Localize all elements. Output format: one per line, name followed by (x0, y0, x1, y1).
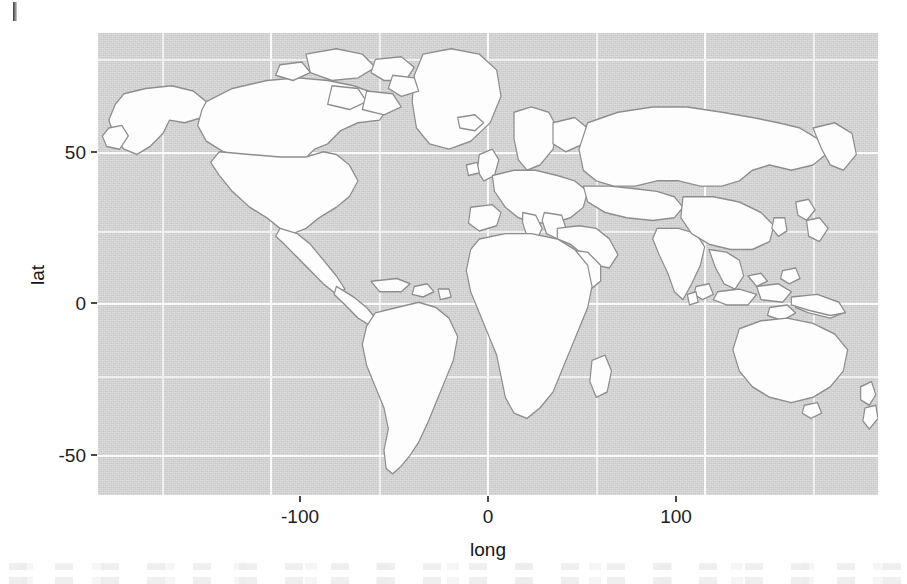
x-tick-label--100: -100 (250, 507, 350, 526)
y-tick-label-50: 50 (20, 143, 86, 162)
y-tick-label--50: -50 (20, 446, 86, 465)
tick-mark-lat-0 (91, 302, 97, 304)
world-map-plot: 50 0 -50 lat -100 0 100 long (0, 0, 907, 584)
x-axis-title: long (438, 540, 538, 559)
x-tick-label-100: 100 (626, 507, 726, 526)
tick-mark-lon-100 (675, 496, 677, 502)
world-map-layer (98, 33, 878, 495)
tick-mark-lat--50 (91, 454, 97, 456)
y-tick-label-0: 0 (20, 294, 86, 313)
plot-panel (98, 33, 878, 495)
tick-mark-lon-0 (487, 496, 489, 502)
tick-mark-lat-50 (91, 151, 97, 153)
y-axis-title: lat (28, 265, 47, 285)
x-tick-label-0: 0 (438, 507, 538, 526)
tick-mark-lon--100 (299, 496, 301, 502)
